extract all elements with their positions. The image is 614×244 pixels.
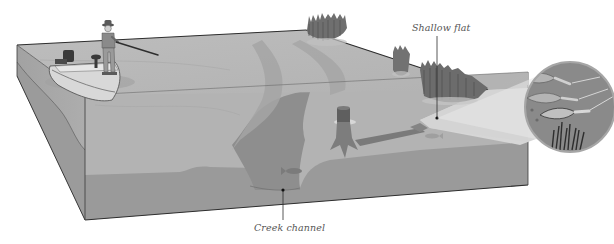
- shallow-flat-label: Shallow flat: [412, 22, 470, 33]
- weed-bed-middle: [392, 45, 410, 77]
- lake-cross-section-diagram: [0, 0, 614, 244]
- creek-channel-label: Creek channel: [254, 222, 325, 233]
- weed-bed-back: [307, 13, 347, 46]
